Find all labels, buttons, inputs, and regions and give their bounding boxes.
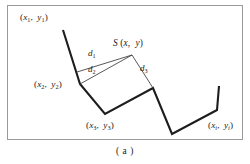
var-d: d	[88, 64, 93, 74]
sub-d: 2	[93, 69, 96, 75]
figure-caption: ( a )	[0, 146, 250, 156]
comma: ,	[217, 120, 221, 130]
comma: ,	[128, 38, 133, 48]
sub-x: 1	[27, 16, 30, 23]
distance-label-d2: d2	[88, 65, 96, 74]
sub-y: 2	[55, 83, 58, 90]
comma: ,	[97, 120, 101, 130]
sub-d: 3	[145, 68, 148, 74]
comma: ,	[31, 12, 35, 22]
point-label-s: S (x, y)	[113, 39, 143, 48]
comma: ,	[45, 79, 49, 89]
vertex-label-point-1: (x1, y1)	[20, 13, 48, 22]
vertex-label-point-3: (x3, y3)	[86, 121, 114, 130]
paren-close: )	[59, 79, 62, 89]
sub-y: 1	[41, 16, 44, 23]
paren-close: )	[45, 12, 48, 22]
sub-y: 3	[107, 124, 110, 131]
sub-y: i	[228, 124, 230, 131]
sub-x: 2	[41, 83, 44, 90]
sub-x: i	[215, 124, 217, 131]
vertex-label-point-i: (xi, yi)	[208, 121, 233, 130]
vertex-label-point-2: (x2, y2)	[34, 80, 62, 89]
sub-x: 3	[93, 124, 96, 131]
paren-close: )	[111, 120, 114, 130]
figure-root: (x1, y1) (x2, y2) (x3, y3) (xi, yi) S (x…	[0, 0, 250, 164]
paren-close: )	[140, 38, 143, 48]
var-d: d	[140, 63, 145, 73]
paren-close: )	[230, 120, 233, 130]
distance-line-d1	[77, 55, 132, 72]
distance-label-d3: d3	[140, 64, 148, 73]
var-s: S	[113, 38, 118, 48]
distance-label-d1: d1	[88, 49, 96, 58]
sub-d: 1	[93, 53, 96, 59]
var-d: d	[88, 48, 93, 58]
